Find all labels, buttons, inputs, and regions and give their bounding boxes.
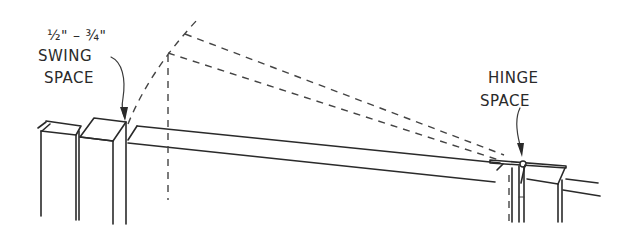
hinge-space-label-line2: SPACE (480, 93, 530, 110)
swing-space-dimension: ½" – ¾" (47, 27, 106, 44)
swing-space-label-line2: SPACE (44, 70, 94, 87)
fence-post-thin (76, 131, 79, 220)
hinge-space-arrow (517, 108, 524, 157)
gate-closed (128, 126, 500, 182)
latch-post (80, 118, 126, 224)
hinge-assembly (490, 160, 566, 222)
gate-open-position (168, 34, 504, 200)
left-fence-section (38, 121, 81, 216)
hinge-space-label-line1: HINGE (488, 70, 539, 87)
swing-space-arrow (111, 57, 128, 121)
swing-space-label-line1: SWING (38, 48, 92, 65)
right-fence-rail (563, 179, 600, 196)
